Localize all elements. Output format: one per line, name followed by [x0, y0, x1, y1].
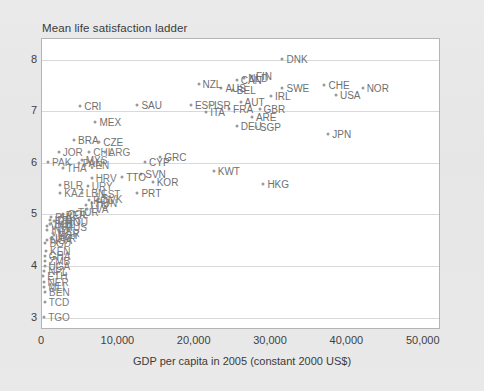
point-label: ETH	[47, 271, 67, 282]
scatter-point[interactable]	[235, 124, 238, 127]
scatter-point[interactable]	[103, 150, 106, 153]
gridline-y	[42, 60, 439, 61]
scatter-point[interactable]	[239, 100, 242, 103]
scatter-point[interactable]	[258, 107, 261, 110]
scatter-point[interactable]	[95, 192, 98, 195]
scatter-point[interactable]	[189, 104, 192, 107]
scatter-point[interactable]	[94, 120, 97, 123]
scatter-point[interactable]	[47, 160, 50, 163]
scatter-point[interactable]	[57, 150, 60, 153]
scatter-point[interactable]	[53, 219, 56, 222]
scatter-point[interactable]	[90, 177, 93, 180]
scatter-point[interactable]	[60, 214, 63, 217]
scatter-point[interactable]	[44, 249, 47, 252]
point-label: ESP	[195, 100, 215, 111]
scatter-point[interactable]	[42, 275, 45, 278]
scatter-point[interactable]	[45, 224, 48, 227]
scatter-point[interactable]	[140, 173, 143, 176]
scatter-point[interactable]	[80, 159, 83, 162]
scatter-point[interactable]	[88, 150, 91, 153]
scatter-point[interactable]	[53, 234, 56, 237]
scatter-point[interactable]	[80, 191, 83, 194]
x-axis-tick-label: 10,000	[101, 334, 135, 346]
scatter-point[interactable]	[98, 141, 101, 144]
scatter-point[interactable]	[159, 155, 162, 158]
scatter-point[interactable]	[231, 88, 234, 91]
scatter-point[interactable]	[250, 116, 253, 119]
scatter-point[interactable]	[334, 93, 337, 96]
scatter-point[interactable]	[228, 107, 231, 110]
scatter-point[interactable]	[151, 181, 154, 184]
scatter-point[interactable]	[327, 132, 330, 135]
scatter-point[interactable]	[250, 75, 253, 78]
scatter-point[interactable]	[43, 270, 46, 273]
scatter-point[interactable]	[136, 104, 139, 107]
scatter-point[interactable]	[85, 204, 88, 207]
scatter-point[interactable]	[61, 167, 64, 170]
point-label: SVN	[145, 169, 166, 180]
scatter-point[interactable]	[43, 301, 46, 304]
scatter-point[interactable]	[83, 164, 86, 167]
gridline-y	[42, 214, 439, 215]
scatter-point[interactable]	[42, 280, 45, 283]
point-label: SAU	[141, 100, 162, 111]
point-label: BRA	[78, 134, 99, 145]
scatter-point[interactable]	[79, 105, 82, 108]
point-label: FRA	[233, 103, 253, 114]
scatter-point[interactable]	[235, 79, 238, 82]
point-label: URY	[92, 181, 113, 192]
scatter-point[interactable]	[60, 221, 63, 224]
scatter-point[interactable]	[49, 218, 52, 221]
scatter-point[interactable]	[44, 290, 47, 293]
point-label: SGP	[260, 121, 281, 132]
scatter-point[interactable]	[281, 57, 284, 60]
scatter-point[interactable]	[323, 84, 326, 87]
scatter-point[interactable]	[86, 208, 89, 211]
point-label: DEU	[241, 120, 262, 131]
point-label: CZE	[103, 137, 123, 148]
scatter-point[interactable]	[43, 315, 46, 318]
scatter-point[interactable]	[205, 111, 208, 114]
scatter-point[interactable]	[49, 222, 52, 225]
point-label: TTO	[126, 172, 146, 183]
point-label: GRC	[164, 151, 186, 162]
scatter-point[interactable]	[220, 87, 223, 90]
scatter-point[interactable]	[58, 183, 61, 186]
y-axis-tick-label: 7	[7, 104, 37, 116]
scatter-point[interactable]	[270, 94, 273, 97]
scatter-point[interactable]	[50, 236, 53, 239]
scatter-point[interactable]	[243, 76, 246, 79]
scatter-point[interactable]	[281, 87, 284, 90]
point-label: JPN	[332, 128, 351, 139]
point-label: MYS	[86, 155, 108, 166]
scatter-point[interactable]	[361, 87, 364, 90]
scatter-point[interactable]	[212, 169, 215, 172]
scatter-point[interactable]	[44, 241, 47, 244]
scatter-point[interactable]	[262, 182, 265, 185]
scatter-point[interactable]	[77, 161, 80, 164]
scatter-point[interactable]	[144, 160, 147, 163]
scatter-point[interactable]	[208, 104, 211, 107]
x-axis-tick-label: 0	[38, 334, 44, 346]
point-label: PRT	[141, 187, 161, 198]
scatter-point[interactable]	[121, 176, 124, 179]
point-label: ZMB	[49, 255, 70, 266]
y-axis-tick-label: 3	[7, 311, 37, 323]
scatter-point[interactable]	[90, 202, 93, 205]
scatter-point[interactable]	[44, 259, 47, 262]
scatter-point[interactable]	[43, 285, 46, 288]
page-title: Mean life satisfaction ladder	[42, 22, 187, 34]
scatter-point[interactable]	[136, 191, 139, 194]
scatter-point[interactable]	[97, 197, 100, 200]
scatter-point[interactable]	[197, 83, 200, 86]
scatter-point[interactable]	[59, 191, 62, 194]
scatter-point[interactable]	[254, 125, 257, 128]
scatter-point[interactable]	[73, 138, 76, 141]
scatter-point[interactable]	[73, 210, 76, 213]
scatter-point[interactable]	[43, 254, 46, 257]
point-label: IRL	[275, 90, 291, 101]
scatter-point[interactable]	[43, 265, 46, 268]
scatter-point[interactable]	[86, 185, 89, 188]
scatter-point[interactable]	[46, 228, 49, 231]
scatter-point[interactable]	[60, 226, 63, 229]
